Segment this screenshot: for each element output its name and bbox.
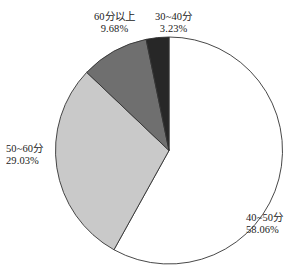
pie-label-50-60: 50~60分 29.03% xyxy=(6,143,43,168)
pie-label-percent: 29.03% xyxy=(6,155,43,167)
pie-label-percent: 3.23% xyxy=(155,23,192,35)
pie-label-name: 40~50分 xyxy=(246,212,283,224)
pie-label-40-50: 40~50分 58.06% xyxy=(246,212,283,237)
pie-label-name: 30~40分 xyxy=(155,11,192,23)
pie-label-name: 50~60分 xyxy=(6,143,43,155)
pie-label-name: 60分以上 xyxy=(94,11,135,23)
pie-chart-figure: 40~50分 58.06% 50~60分 29.03% 60分以上 9.68% … xyxy=(0,0,308,276)
pie-label-30-40: 30~40分 3.23% xyxy=(155,11,192,36)
pie-label-60-above: 60分以上 9.68% xyxy=(94,11,135,36)
pie-label-percent: 58.06% xyxy=(246,224,283,236)
pie-label-percent: 9.68% xyxy=(94,23,135,35)
